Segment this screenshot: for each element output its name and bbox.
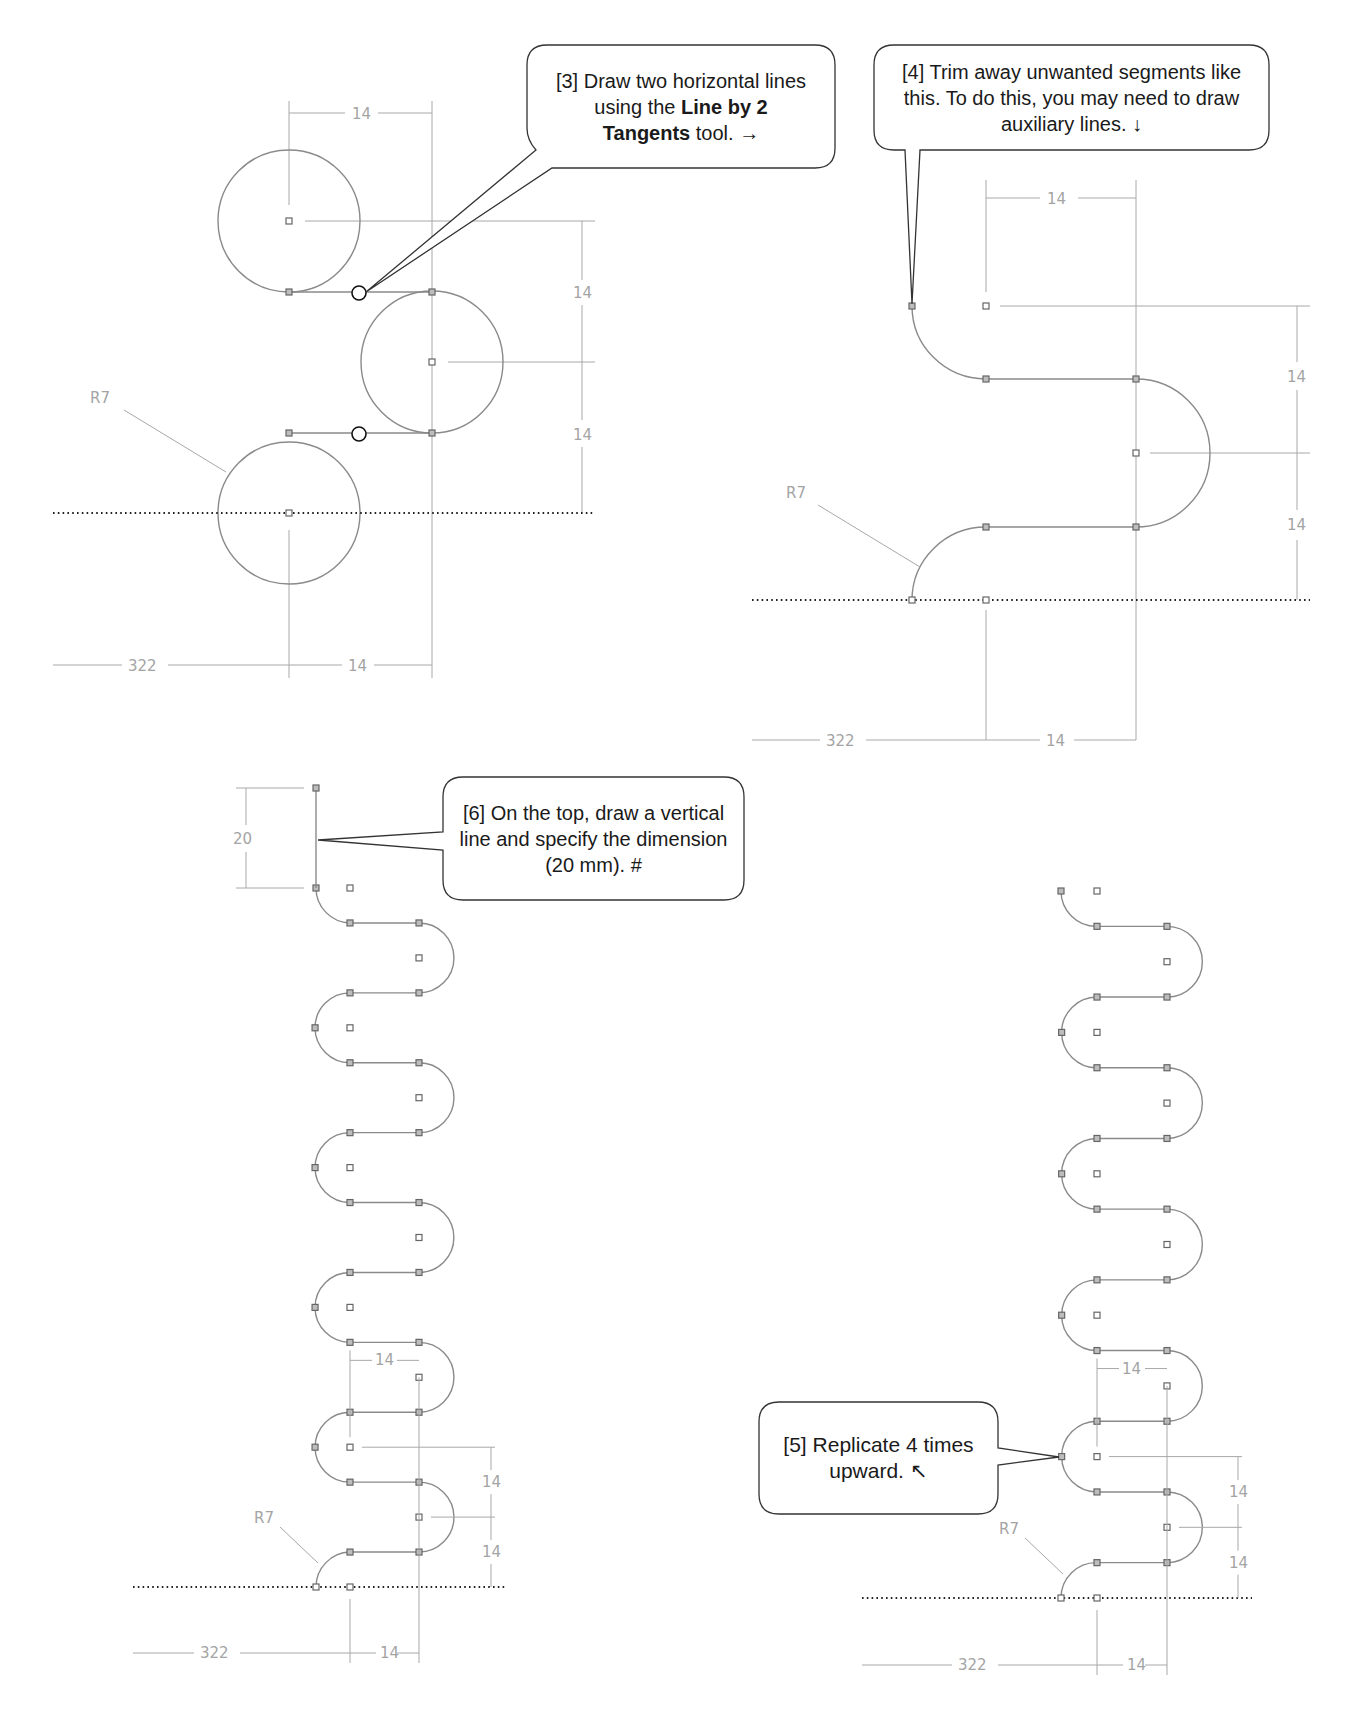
callout-step4: [4] Trim away unwanted segments like thi… — [874, 45, 1269, 150]
dim-label: 14 — [1127, 1656, 1146, 1674]
radius-label: R7 — [90, 389, 110, 407]
dim-label: 14 — [1229, 1483, 1248, 1501]
offset-label: 322 — [128, 657, 157, 675]
dimension-20mm: 20 — [233, 785, 319, 888]
dim-label: 14 — [352, 105, 371, 123]
dim-label: 14 — [1046, 732, 1065, 750]
wave-profile — [1061, 891, 1202, 1598]
dim-label: 14 — [1229, 1554, 1248, 1572]
callout-step5: [5] Replicate 4 times upward. ↖ — [759, 1402, 998, 1514]
tangent-marker — [352, 286, 366, 300]
panel-bottom-left: 141414R732214 — [133, 885, 505, 1663]
dim-label: 14 — [573, 426, 592, 444]
offset-label: 322 — [200, 1644, 229, 1662]
dim-label: 14 — [348, 657, 367, 675]
dim-label: 14 — [375, 1351, 394, 1369]
cad-tutorial-figure: 14 14 14 R7 322 14 — [0, 0, 1350, 1732]
top-line-label: 20 — [233, 830, 252, 848]
wave-profile — [315, 888, 454, 1587]
panel-top-right: 14 14 14 R7 322 14 — [752, 180, 1310, 750]
callout-step6: [6] On the top, draw a vertical line and… — [443, 777, 744, 900]
panel-bottom-right: 141414R732214 — [862, 888, 1252, 1675]
dim-label: 14 — [573, 284, 592, 302]
dim-label: 14 — [1047, 190, 1066, 208]
offset-label: 322 — [958, 1656, 987, 1674]
dim-label: 14 — [482, 1473, 501, 1491]
offset-label: 322 — [826, 732, 855, 750]
dim-label: 14 — [1287, 368, 1306, 386]
dim-label: 14 — [380, 1644, 399, 1662]
callout-step3: [3] Draw two horizontal lines using the … — [527, 45, 835, 168]
dim-label: 14 — [482, 1543, 501, 1561]
dim-label: 14 — [1122, 1360, 1141, 1378]
dim-label: 14 — [1287, 516, 1306, 534]
radius-label: R7 — [254, 1509, 274, 1527]
radius-label: R7 — [786, 484, 806, 502]
tangent-marker — [352, 427, 366, 441]
radius-label: R7 — [999, 1520, 1019, 1538]
